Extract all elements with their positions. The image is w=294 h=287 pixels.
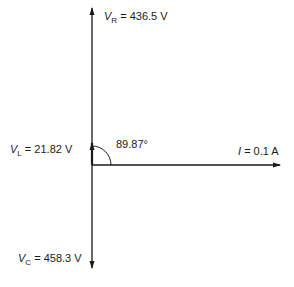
- current-symbol: I: [238, 145, 241, 157]
- vc-label: VC = 458.3 V: [18, 252, 82, 264]
- vc-subscript: C: [25, 258, 31, 267]
- angle-label: 89.87°: [116, 138, 148, 150]
- vc-value: = 458.3 V: [34, 252, 81, 264]
- vl-label: VL = 21.82 V: [10, 143, 72, 155]
- phasor-diagram: VR = 436.5 V VL = 21.82 V 89.87° I = 0.1…: [0, 0, 294, 287]
- current-label: I = 0.1 A: [238, 145, 279, 157]
- angle-arc: [92, 146, 111, 165]
- vl-subscript: L: [17, 149, 21, 158]
- current-value: = 0.1 A: [244, 145, 279, 157]
- vr-value: = 436.5 V: [120, 10, 167, 22]
- vl-value: = 21.82 V: [25, 143, 72, 155]
- vr-subscript: R: [111, 16, 117, 25]
- vr-label: VR = 436.5 V: [104, 10, 168, 22]
